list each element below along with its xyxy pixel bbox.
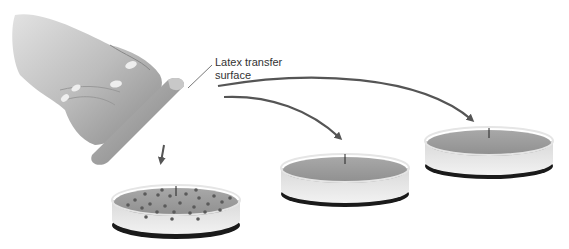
callout-line-2: surface bbox=[215, 69, 282, 82]
replica-plating-figure: Latex transfer surface bbox=[0, 0, 569, 249]
callout-label: Latex transfer surface bbox=[215, 56, 282, 82]
replica-plate-2 bbox=[425, 127, 553, 179]
arrow-to-replica-1 bbox=[224, 97, 340, 138]
callout-line-1: Latex transfer bbox=[215, 56, 282, 69]
arrow-down bbox=[161, 145, 164, 162]
master-plate bbox=[112, 185, 240, 239]
replica-plate-1 bbox=[281, 154, 409, 207]
callout-leader bbox=[188, 65, 212, 88]
